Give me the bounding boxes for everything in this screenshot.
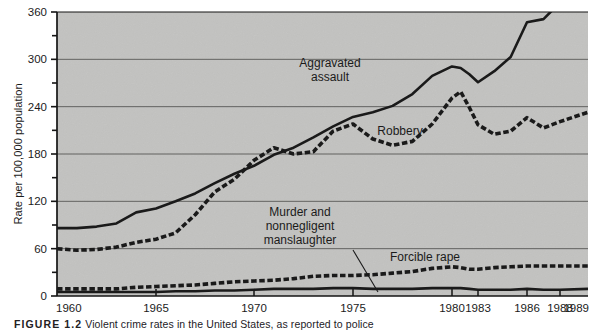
annotation-forcible-rape: Forcible rape xyxy=(390,250,460,264)
y-tick-label: 360 xyxy=(28,6,47,18)
figure-caption-label: FIGURE 1.2 xyxy=(14,318,82,330)
y-tick-label: 180 xyxy=(28,148,47,160)
y-axis-tick-labels: 060120180240300360 xyxy=(28,6,47,302)
x-tick-label: 1965 xyxy=(143,302,169,314)
y-axis-ticks xyxy=(51,12,57,296)
annotation-murder-and-nonnegligent-manslaughter: Murder andnonnegligentmanslaughter xyxy=(264,205,337,247)
x-tick-label: 1980 xyxy=(439,302,465,314)
x-tick-label: 1983 xyxy=(465,302,491,314)
figure-caption-text: Violent crime rates in the United States… xyxy=(85,318,374,330)
y-tick-label: 60 xyxy=(34,243,47,255)
y-tick-label: 300 xyxy=(28,53,47,65)
x-tick-label: 1960 xyxy=(56,302,82,314)
y-tick-label: 0 xyxy=(41,290,47,302)
x-tick-label: 1970 xyxy=(241,302,267,314)
annotation-robbery: Robbery xyxy=(377,124,422,138)
y-tick-label: 240 xyxy=(28,101,47,113)
x-axis-tick-labels: 196019651970197519801983198619881989 xyxy=(56,302,589,314)
y-tick-label: 120 xyxy=(28,195,47,207)
figure-caption: FIGURE 1.2 Violent crime rates in the Un… xyxy=(14,318,604,330)
y-axis-title: Rate per 100,000 population xyxy=(12,83,24,224)
x-tick-label: 1989 xyxy=(563,302,589,314)
x-tick-label: 1975 xyxy=(340,302,366,314)
x-tick-label: 1986 xyxy=(514,302,540,314)
